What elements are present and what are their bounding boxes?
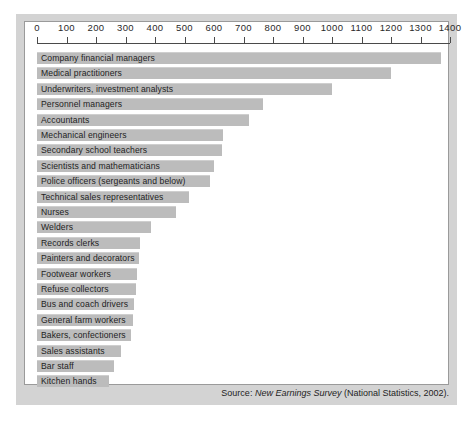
bar-row[interactable]: Kitchen hands: [37, 375, 450, 387]
bar-category-label: Kitchen hands: [41, 376, 97, 386]
bar-row[interactable]: General farm workers: [37, 314, 450, 326]
x-tick-label: 1000: [321, 22, 344, 33]
bar-category-label: Police officers (sergeants and below): [41, 176, 185, 186]
bar-container: Company financial managersMedical practi…: [25, 50, 450, 386]
x-tick-mark: [126, 37, 127, 43]
bar-category-label: Mechanical engineers: [41, 130, 127, 140]
x-tick-label: 500: [176, 22, 193, 33]
bar-category-label: Secondary school teachers: [41, 145, 147, 155]
bar-row[interactable]: Police officers (sergeants and below): [37, 175, 450, 187]
x-tick-label: 1200: [380, 22, 403, 33]
bar-row[interactable]: Secondary school teachers: [37, 144, 450, 156]
bar-category-label: Refuse collectors: [41, 284, 109, 294]
bar-row[interactable]: Medical practitioners: [37, 67, 450, 79]
bar-category-label: Bakers, confectioners: [41, 330, 126, 340]
bar-row[interactable]: Accountants: [37, 114, 450, 126]
bar-category-label: Underwriters, investment analysts: [41, 84, 173, 94]
x-tick-mark: [155, 37, 156, 43]
bar-category-label: Scientists and mathematicians: [41, 161, 160, 171]
x-tick-label: 1300: [409, 22, 432, 33]
chart-plot-area: 0100200300400500600700800900100011001200…: [24, 21, 449, 385]
bar-row[interactable]: Technical sales representatives: [37, 191, 450, 203]
bar-category-label: Accountants: [41, 115, 89, 125]
bar-category-label: Welders: [41, 222, 73, 232]
x-tick-label: 900: [294, 22, 311, 33]
x-tick-label: 400: [146, 22, 163, 33]
source-suffix: (National Statistics, 2002).: [341, 388, 449, 398]
bar-category-label: Footwear workers: [41, 269, 111, 279]
source-title: New Earnings Survey: [255, 388, 342, 398]
bar-category-label: Personnel managers: [41, 99, 122, 109]
bar-category-label: General farm workers: [41, 315, 126, 325]
x-tick-label: 300: [117, 22, 134, 33]
x-tick-mark: [37, 37, 38, 43]
x-tick-label: 1400: [439, 22, 462, 33]
bar-row[interactable]: Records clerks: [37, 237, 450, 249]
x-tick-label: 200: [87, 22, 104, 33]
bar-row[interactable]: Mechanical engineers: [37, 129, 450, 141]
x-tick-mark: [185, 37, 186, 43]
bar-row[interactable]: Welders: [37, 221, 450, 233]
bar-row[interactable]: Nurses: [37, 206, 450, 218]
bar-category-label: Bar staff: [41, 361, 74, 371]
x-tick-label: 100: [58, 22, 75, 33]
x-tick-mark: [244, 37, 245, 43]
x-axis: 0100200300400500600700800900100011001200…: [25, 22, 450, 50]
axis-line: [37, 43, 450, 44]
bar-row[interactable]: Bus and coach drivers: [37, 298, 450, 310]
x-tick-mark: [214, 37, 215, 43]
bar-row[interactable]: Bar staff: [37, 360, 450, 372]
x-tick-mark: [96, 37, 97, 43]
bar-row[interactable]: Footwear workers: [37, 268, 450, 280]
x-tick-mark: [273, 37, 274, 43]
x-tick-mark: [421, 37, 422, 43]
bar-row[interactable]: Underwriters, investment analysts: [37, 83, 450, 95]
bar-row[interactable]: Bakers, confectioners: [37, 329, 450, 341]
x-tick-mark: [450, 37, 451, 43]
bar-row[interactable]: Scientists and mathematicians: [37, 160, 450, 172]
x-tick-mark: [67, 37, 68, 43]
bar-row[interactable]: Sales assistants: [37, 345, 450, 357]
bar-category-label: Sales assistants: [41, 346, 105, 356]
bar-category-label: Technical sales representatives: [41, 192, 164, 202]
bar-row[interactable]: Refuse collectors: [37, 283, 450, 295]
x-tick-label: 0: [34, 22, 40, 33]
bar-category-label: Medical practitioners: [41, 68, 122, 78]
bar-row[interactable]: Personnel managers: [37, 98, 450, 110]
x-tick-label: 600: [205, 22, 222, 33]
bar-category-label: Nurses: [41, 207, 69, 217]
x-tick-mark: [332, 37, 333, 43]
x-tick-mark: [303, 37, 304, 43]
x-tick-mark: [391, 37, 392, 43]
bar-category-label: Painters and decorators: [41, 253, 135, 263]
x-tick-label: 700: [235, 22, 252, 33]
x-tick-label: 800: [264, 22, 281, 33]
x-tick-label: 1100: [350, 22, 372, 33]
source-note: Source: New Earnings Survey (National St…: [24, 388, 449, 398]
bar-row[interactable]: Company financial managers: [37, 52, 450, 64]
bar-category-label: Company financial managers: [41, 53, 155, 63]
x-tick-mark: [362, 37, 363, 43]
bar-category-label: Bus and coach drivers: [41, 299, 128, 309]
figure-panel: 0100200300400500600700800900100011001200…: [16, 14, 457, 405]
bar-category-label: Records clerks: [41, 238, 99, 248]
source-prefix: Source:: [221, 388, 255, 398]
bar-row[interactable]: Painters and decorators: [37, 252, 450, 264]
